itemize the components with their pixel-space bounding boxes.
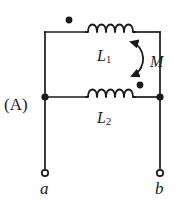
- polarity-dot-L1-left: [66, 17, 73, 24]
- terminal-a-circle[interactable]: [42, 170, 48, 176]
- terminal-a-label: a: [40, 180, 49, 197]
- option-label: (A): [4, 96, 28, 113]
- terminal-b-circle[interactable]: [157, 170, 163, 176]
- junction-right-dot: [156, 93, 163, 100]
- inductor-L2-label-base: L: [97, 109, 106, 126]
- mutual-inductance-label: M: [150, 54, 163, 70]
- inductor-L1-label-base: L: [97, 47, 106, 64]
- inductor-L2-label: L2: [97, 110, 111, 128]
- inductor-L2-coil: [86, 90, 135, 98]
- inductor-L1-label: L1: [97, 48, 111, 66]
- polarity-dot-L2-right: [137, 82, 144, 89]
- terminal-b-label: b: [155, 180, 164, 197]
- circuit-schematic: [0, 0, 188, 202]
- inductor-L1-coil: [86, 25, 135, 33]
- junction-left-dot: [41, 93, 48, 100]
- mutual-coupling-arrow: [131, 42, 143, 76]
- figure-canvas: (A) L1 L2 M a b: [0, 0, 188, 202]
- inductor-L2-label-sub: 2: [106, 116, 111, 127]
- inductor-L1-label-sub: 1: [106, 54, 111, 65]
